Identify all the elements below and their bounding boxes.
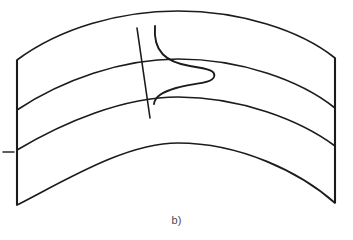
figure-caption: b) bbox=[0, 214, 353, 226]
figure-container: b) bbox=[0, 0, 353, 240]
geological-cross-section-diagram bbox=[0, 0, 353, 240]
